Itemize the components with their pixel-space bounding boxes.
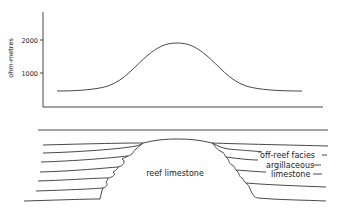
y-axis-label: ohm-metres (7, 38, 15, 78)
y-tick-label-1000: 1000 (21, 70, 38, 78)
y-tick-label-2000: 2000 (21, 37, 38, 45)
diagram-canvas: 2000 1000 ohm-metres (0, 0, 340, 213)
diagram: 2000 1000 ohm-metres (0, 0, 340, 213)
argillaceous-label: argillaceous (266, 161, 314, 170)
resistivity-curve (57, 43, 302, 91)
limestone-label: limestone (271, 170, 310, 179)
off-reef-facies-label: off-reef facies (260, 151, 315, 160)
reef-limestone-label: reef limestone (146, 169, 204, 178)
cross-section: reef limestone off-reef facies argillace… (24, 130, 328, 201)
reef-crest (143, 139, 212, 143)
left-flank-beds (24, 143, 143, 201)
resistivity-chart: 2000 1000 ohm-metres (7, 12, 323, 107)
